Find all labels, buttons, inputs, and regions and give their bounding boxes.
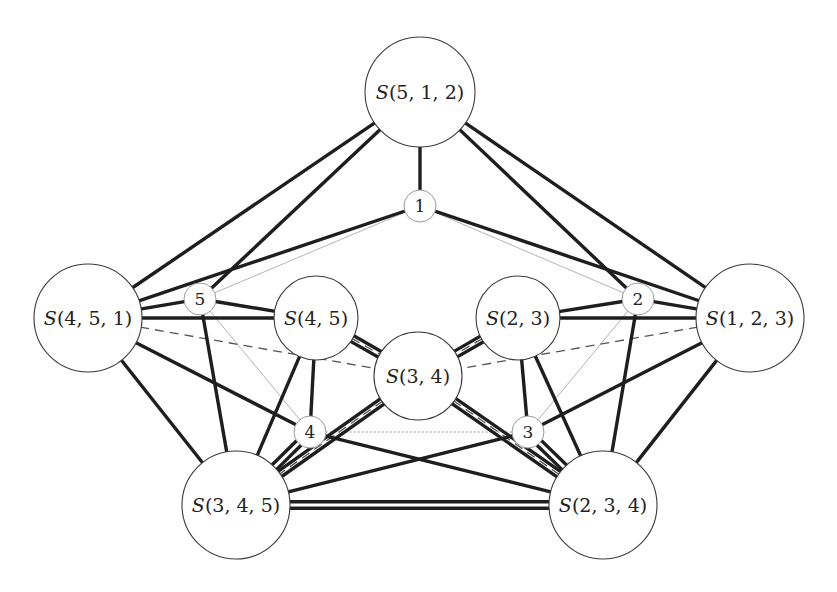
node-n4: 4 (294, 416, 326, 448)
node-label: 4 (305, 422, 316, 442)
node-label: S(4, 5) (284, 307, 348, 329)
thick-edge-S451-n5 (140, 302, 184, 310)
node-label: 1 (415, 196, 426, 216)
node-S451: S(4, 5, 1) (34, 264, 142, 372)
node-label: 3 (523, 422, 534, 442)
node-S234: S(2, 3, 4) (549, 451, 657, 559)
graph-diagram: S(5, 1, 2)S(4, 5, 1)S(1, 2, 3)S(3, 4, 5)… (0, 0, 837, 592)
double-edge-S34-S234 (455, 398, 561, 472)
node-label: S(3, 4) (386, 365, 450, 387)
node-label: S(4, 5, 1) (44, 307, 132, 329)
node-S512: S(5, 1, 2) (365, 37, 475, 147)
node-label: S(3, 4, 5) (192, 494, 280, 516)
node-label: S(5, 1, 2) (376, 81, 464, 103)
edges-layer (121, 122, 717, 508)
graph-svg: S(5, 1, 2)S(4, 5, 1)S(1, 2, 3)S(3, 4, 5)… (0, 0, 837, 592)
double-edge-S34-S345 (277, 398, 381, 471)
node-S34: S(3, 4) (374, 332, 462, 420)
node-n1: 1 (404, 190, 436, 222)
node-n2: 2 (622, 283, 654, 315)
node-S123: S(1, 2, 3) (696, 264, 804, 372)
node-n5: 5 (184, 283, 216, 315)
thick-edge-S451-S345 (121, 359, 203, 463)
thick-edge-S123-S234 (636, 360, 718, 464)
node-S45: S(4, 5) (274, 276, 358, 360)
thick-edge-S23-n3 (522, 359, 527, 416)
node-label: 5 (195, 289, 206, 309)
thick-edge-S512-n5 (211, 129, 380, 288)
thick-edge-n2-S234 (612, 314, 636, 452)
node-label: S(2, 3, 4) (559, 494, 647, 516)
dashed-edge-S45-S34 (352, 338, 381, 354)
thick-edge-n5-S345 (203, 314, 227, 452)
thick-edge-S123-n2 (653, 302, 697, 310)
node-label: S(1, 2, 3) (706, 307, 794, 329)
thick-edge-n2-S23 (559, 301, 623, 311)
node-label: S(2, 3) (486, 307, 550, 329)
node-label: 2 (633, 289, 644, 309)
thick-edge-n5-S45 (215, 302, 275, 312)
thick-edge-S512-n2 (459, 129, 627, 288)
node-S345: S(3, 4, 5) (182, 451, 290, 559)
thick-edge-S45-n4 (311, 359, 314, 416)
node-S23: S(2, 3) (476, 276, 560, 360)
node-n3: 3 (512, 416, 544, 448)
